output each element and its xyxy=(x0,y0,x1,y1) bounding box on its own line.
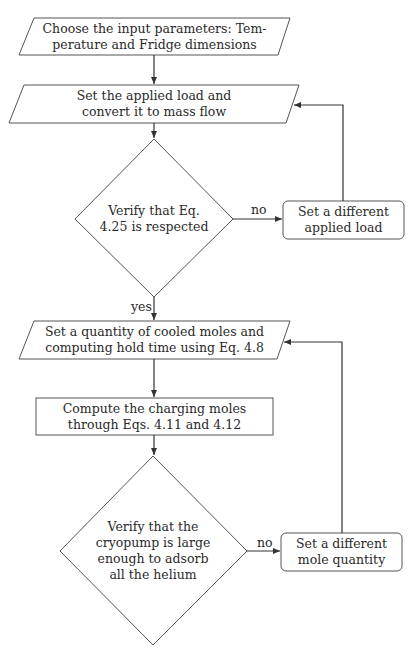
text-line: mole quantity xyxy=(298,552,385,568)
text-line: computing hold time using Eq. 4.8 xyxy=(45,340,264,356)
text-line: Set a different xyxy=(298,204,389,220)
node-different-load-label: Set a different applied load xyxy=(283,201,404,239)
text-line: Set a different xyxy=(296,536,387,552)
node-compute-charging-label: Compute the charging moles through Eqs. … xyxy=(36,398,273,435)
text-line: applied load xyxy=(305,220,383,236)
text-line: 4.25 is respected xyxy=(100,219,209,235)
text-line: all the helium xyxy=(109,567,196,583)
text-line: Compute the charging moles xyxy=(63,401,247,417)
text-line: Choose the input parameters: Tem- xyxy=(43,21,267,37)
edge-label-no-2: no xyxy=(257,536,273,550)
node-set-load-label: Set the applied load and convert it to m… xyxy=(9,85,299,123)
text-line: Verify that Eq. xyxy=(108,203,200,219)
node-verify-eq-label: Verify that Eq. 4.25 is respected xyxy=(90,199,218,239)
node-set-moles-label: Set a quantity of cooled moles and compu… xyxy=(19,321,290,359)
node-verify-cryopump-label: Verify that the cryopump is large enough… xyxy=(83,519,223,583)
node-input-params-label: Choose the input parameters: Tem- peratu… xyxy=(19,18,290,55)
edge-label-no-1: no xyxy=(251,203,267,217)
edge-label-yes: yes xyxy=(131,300,152,314)
text-line: Set the applied load and xyxy=(77,88,232,104)
text-line: Verify that the xyxy=(108,519,199,535)
text-line: perature and Fridge dimensions xyxy=(52,37,256,53)
text-line: convert it to mass flow xyxy=(82,104,226,120)
text-line: enough to adsorb xyxy=(98,551,209,567)
edge-loop-to-moles xyxy=(284,342,342,533)
edge-loop-to-load xyxy=(294,105,343,201)
node-different-moles-label: Set a different mole quantity xyxy=(281,533,402,571)
text-line: through Eqs. 4.11 and 4.12 xyxy=(68,417,241,433)
text-line: Set a quantity of cooled moles and xyxy=(45,324,264,340)
text-line: cryopump is large xyxy=(96,535,211,551)
